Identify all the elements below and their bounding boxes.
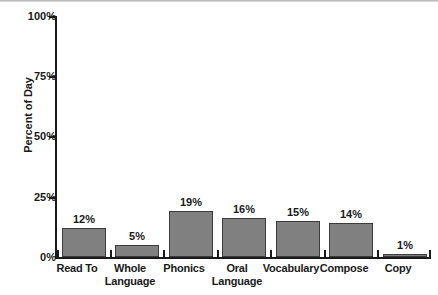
bar[interactable]: [383, 254, 427, 257]
bar[interactable]: [329, 223, 373, 257]
bar[interactable]: [276, 221, 320, 257]
bar-value-label: 5%: [129, 230, 145, 242]
bar[interactable]: [62, 228, 106, 257]
bar-value-label: 1%: [397, 239, 413, 251]
bar-chart: Percent of Day 100% 75% 50% 25% 0% 12%: [0, 0, 438, 295]
bar-value-label: 12%: [73, 213, 95, 225]
x-category-line: Phonics: [163, 262, 204, 274]
bar[interactable]: [169, 211, 213, 257]
bar-group-read-to: 12%: [62, 16, 106, 257]
x-category-line: Read To: [56, 262, 97, 274]
plot-area: 12% 5% 19% 16% 15% 14% 1%: [57, 16, 431, 257]
bar-group-compose: 14%: [329, 16, 373, 257]
bar-group-copy: 1%: [383, 16, 427, 257]
bar-value-label: 14%: [340, 208, 362, 220]
bar-group-phonics: 19%: [169, 16, 213, 257]
x-category-line: Oral: [226, 262, 247, 274]
top-edge-artifact: [0, 0, 438, 2]
bar-value-label: 19%: [180, 196, 202, 208]
x-category-line: Language: [93, 275, 167, 288]
y-tick-label: 25%: [12, 191, 56, 203]
bar-group-vocabulary: 15%: [276, 16, 320, 257]
y-axis-title: Percent of Day: [22, 40, 34, 190]
x-category-label-copy: Copy: [361, 262, 435, 275]
bar-group-oral-language: 16%: [222, 16, 266, 257]
bar[interactable]: [115, 245, 159, 257]
x-category-line: Copy: [385, 262, 412, 274]
bar-value-label: 15%: [287, 206, 309, 218]
x-category-line: Whole: [114, 262, 146, 274]
y-tick-label: 75%: [12, 70, 56, 82]
y-tick-label: 100%: [12, 10, 56, 22]
bar-value-label: 16%: [233, 203, 255, 215]
bar-group-whole-language: 5%: [115, 16, 159, 257]
x-category-line: Language: [200, 275, 274, 288]
y-tick-label: 50%: [12, 130, 56, 142]
bar[interactable]: [222, 218, 266, 257]
